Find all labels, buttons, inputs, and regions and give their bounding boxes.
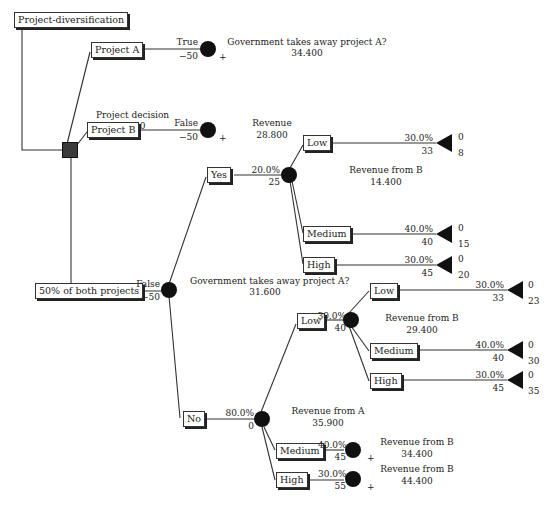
decision-node-square-icon[interactable] [62,142,78,158]
node-a-title: Government takes away project A? [222,37,392,48]
no-low-child-low[interactable]: Low [370,283,398,299]
terminal-node-icon[interactable] [436,256,452,274]
no-high-prob: 30.0% [318,469,346,480]
no-child-high[interactable]: High [276,472,308,488]
yes-child-medium-prob: 40.0% [395,224,433,235]
branch-b-cost: −50 [166,132,198,143]
no-medium-prob: 40.0% [318,440,346,451]
node-b-title: Revenue [242,118,302,129]
no-low-prob: 30.0% [316,311,346,322]
chance-node-no-medium-icon[interactable] [345,442,361,458]
yes-child-low-prob: 30.0% [395,133,433,144]
branch-both-outcome: False [128,279,160,290]
chance-node-both-icon[interactable] [161,282,177,298]
branch-project-a[interactable]: Project A [91,42,143,58]
no-node-value: 35.900 [278,418,378,429]
no-low-child-high[interactable]: High [370,373,402,389]
terminal-node-icon[interactable] [436,225,452,243]
yes-node-title: Revenue from B [336,165,436,176]
plus-sign: + [219,134,227,143]
yes-child-high-t-top: 0 [458,254,464,265]
yes-child-low-value: 33 [395,146,433,157]
chance-node-no-low-icon[interactable] [343,312,359,328]
no-low-child-medium-t-bot: 30 [528,356,539,367]
branch-b-outcome: False [166,118,198,129]
no-low-child-low-t-bot: 23 [528,296,539,307]
chance-node-a-icon[interactable] [200,41,216,57]
yes-child-low-t-bot: 8 [458,148,464,159]
no-value: 0 [218,421,254,432]
no-medium-node-title: Revenue from B [372,437,462,448]
yes-child-medium-t-top: 0 [458,223,464,234]
yes-child-low-t-top: 0 [458,132,464,143]
yes-prob: 20.0% [245,165,280,176]
tree-edges [0,0,552,505]
no-low-node-title: Revenue from B [372,313,472,324]
yes-child-high-value: 45 [395,268,433,279]
no-high-node-title: Revenue from B [372,464,462,475]
no-medium-value: 45 [318,452,346,463]
node-a-value: 34.400 [222,48,392,59]
yes-child-high-prob: 30.0% [395,255,433,266]
branch-both-cost: −50 [128,292,160,303]
no-low-child-medium-value: 40 [466,353,504,364]
yes-child-high[interactable]: High [303,257,335,273]
yes-value: 25 [245,177,280,188]
branch-both-projects[interactable]: 50% of both projects [35,283,143,299]
no-low-child-high-value: 45 [466,383,504,394]
branch-no[interactable]: No [183,411,205,427]
decision-title: Project decision [96,110,169,121]
yes-child-medium-t-bot: 15 [458,239,469,250]
chance-node-b-icon[interactable] [200,122,216,138]
terminal-node-icon[interactable] [436,134,452,152]
yes-child-medium[interactable]: Medium [303,226,351,242]
no-low-child-low-value: 33 [466,293,504,304]
no-low-child-low-t-top: 0 [528,280,534,291]
no-low-child-medium-prob: 40.0% [466,340,504,351]
no-high-value: 55 [318,481,346,492]
terminal-node-icon[interactable] [507,371,523,389]
node-both-value: 31.600 [190,287,340,298]
yes-child-low[interactable]: Low [303,135,331,151]
terminal-node-icon[interactable] [507,281,523,299]
chance-node-yes-icon[interactable] [281,167,297,183]
no-low-value: 40 [316,323,346,334]
chance-node-no-high-icon[interactable] [345,471,361,487]
no-low-child-medium-t-top: 0 [528,340,534,351]
branch-yes[interactable]: Yes [207,167,231,183]
no-low-child-medium[interactable]: Medium [370,343,418,359]
no-prob: 80.0% [218,408,254,419]
no-child-medium[interactable]: Medium [276,443,324,459]
no-low-child-high-t-bot: 35 [528,386,539,397]
branch-project-b[interactable]: Project B [87,122,139,138]
branch-a-cost: −50 [166,51,198,62]
no-medium-node-value: 34.400 [372,449,462,460]
root-node[interactable]: Project-diversification [14,12,128,28]
no-node-title: Revenue from A [278,406,378,417]
yes-node-value: 14.400 [336,177,436,188]
branch-a-outcome: True [166,37,198,48]
no-low-child-low-prob: 30.0% [466,280,504,291]
node-both-title: Government takes away project A? [190,276,340,287]
node-b-value: 28.800 [242,130,302,141]
terminal-node-icon[interactable] [507,341,523,359]
chance-node-no-icon[interactable] [254,411,270,427]
yes-child-medium-value: 40 [395,237,433,248]
no-low-child-high-prob: 30.0% [466,370,504,381]
no-low-node-value: 29.400 [372,325,472,336]
no-high-node-value: 44.400 [372,476,462,487]
no-low-child-high-t-top: 0 [528,370,534,381]
